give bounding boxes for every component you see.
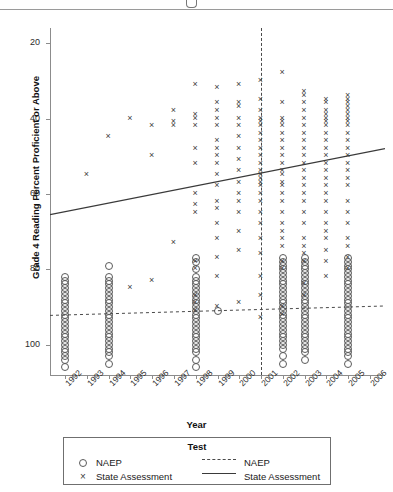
chart-page: 10080604020 1992199319941995199619971998… [0,0,393,492]
trend-lines [50,28,385,375]
page-top-divider [0,9,393,10]
legend-label-state-assessment: State Assessment [96,470,172,484]
trend-line-naep [50,306,385,315]
cropped-top-element [186,0,197,8]
dashed-line-icon [202,456,236,463]
solid-line-icon [202,470,236,477]
y-tick-label: 20 [14,37,40,47]
legend-title: Test [64,441,330,452]
y-tick-label: 100 [14,339,40,349]
y-axis-title: Grade 4 Reading Percent Proficient or Ab… [30,48,41,308]
legend-line-label-state-assessment: State Assessment [244,470,320,484]
trend-line-state-assessment [50,149,385,215]
legend: Test NAEP × State Assessment NAEP State … [63,437,331,485]
reference-line-2001 [261,28,262,375]
legend-label-naep: NAEP [96,456,122,470]
x-mark-icon: × [76,470,90,484]
x-axis-title: Year [0,419,393,430]
legend-line-label-naep: NAEP [244,456,270,470]
circle-icon [76,456,90,470]
